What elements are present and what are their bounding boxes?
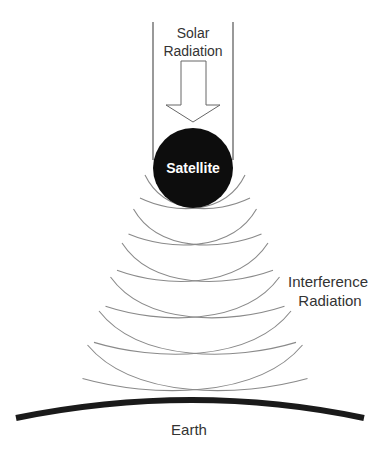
interference-label-line2: Radiation: [298, 292, 361, 309]
interference-label-line1: Interference: [288, 273, 368, 290]
earth-label: Earth: [171, 421, 207, 438]
solar-label-line2: Radiation: [163, 43, 222, 59]
earth-surface: [16, 400, 364, 418]
down-arrow-icon: [166, 61, 220, 122]
solar-label-line1: Solar: [177, 25, 210, 41]
satellite-label: Satellite: [166, 160, 220, 176]
diagram-canvas: Solar Radiation Satellite Interference R…: [0, 0, 387, 458]
